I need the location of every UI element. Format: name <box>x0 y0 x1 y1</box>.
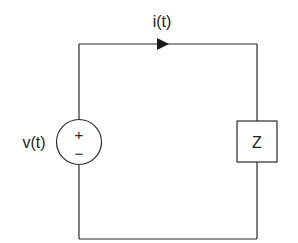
current-arrow-icon <box>157 38 169 50</box>
current-label: i(t) <box>153 13 172 30</box>
impedance-label: Z <box>252 134 262 151</box>
voltage-source: + − <box>57 120 102 165</box>
circuit-diagram: i(t) + − v(t) Z <box>0 0 298 243</box>
wires <box>79 44 257 239</box>
source-label: v(t) <box>22 134 45 151</box>
plus-sign: + <box>75 126 84 143</box>
minus-sign: − <box>75 145 84 162</box>
impedance: Z <box>237 121 277 162</box>
